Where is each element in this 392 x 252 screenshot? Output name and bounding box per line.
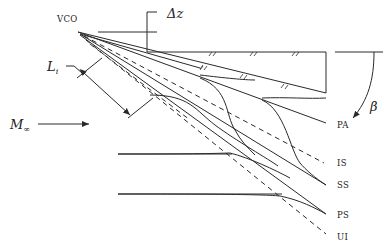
shock-label-ss: SS bbox=[337, 180, 349, 190]
shock-label-ps: PS bbox=[337, 210, 349, 220]
delta-z-label: Δz bbox=[166, 6, 183, 21]
shock-label-is: IS bbox=[337, 158, 347, 168]
vco-label: VCO bbox=[56, 14, 78, 24]
shock-label-pa: PA bbox=[337, 120, 349, 130]
length-label: Li bbox=[46, 59, 59, 76]
interaction-curves bbox=[118, 75, 326, 214]
shock-label-ui: UI bbox=[337, 232, 348, 242]
length-dimension bbox=[66, 58, 153, 118]
shock-interaction-diagram: Δz VCO β bbox=[0, 0, 392, 252]
shock-line-ps bbox=[80, 35, 326, 214]
delta-z-indicator bbox=[98, 12, 157, 52]
mach-label: M∞ bbox=[9, 117, 30, 134]
beta-label: β bbox=[369, 99, 378, 114]
shock-line-is bbox=[84, 36, 324, 163]
wall-body bbox=[78, 32, 326, 93]
shock-line-ui bbox=[86, 40, 326, 234]
